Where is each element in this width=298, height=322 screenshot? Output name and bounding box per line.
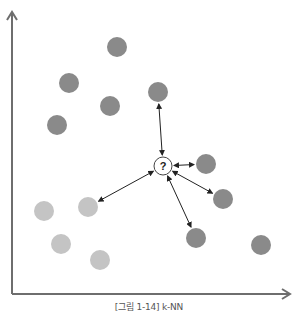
- data-point-dark: [148, 82, 168, 102]
- axes: [7, 12, 290, 299]
- distance-arrow: [173, 171, 213, 193]
- data-point-dark: [100, 96, 120, 116]
- distance-arrow: [159, 104, 162, 155]
- data-point-light: [51, 234, 71, 254]
- data-point-light: [90, 250, 110, 270]
- data-point-dark: [59, 73, 79, 93]
- data-point-dark: [196, 154, 216, 174]
- data-point-light: [78, 197, 98, 217]
- data-point-light: [34, 201, 54, 221]
- data-point-dark: [251, 235, 271, 255]
- query-point: ?: [154, 157, 172, 175]
- distance-arrow: [99, 171, 154, 201]
- figure-caption: [그림 1-14] k-NN: [0, 300, 298, 313]
- data-point-dark: [107, 37, 127, 57]
- data-point-dark: [213, 189, 233, 209]
- distance-arrow: [168, 176, 191, 227]
- class-b-points: [34, 197, 110, 270]
- distance-arrow: [174, 165, 194, 166]
- data-point-dark: [186, 228, 206, 248]
- class-a-points: [47, 37, 271, 255]
- data-point-dark: [47, 115, 67, 135]
- query-label: ?: [160, 160, 167, 172]
- knn-diagram: ?: [0, 0, 298, 300]
